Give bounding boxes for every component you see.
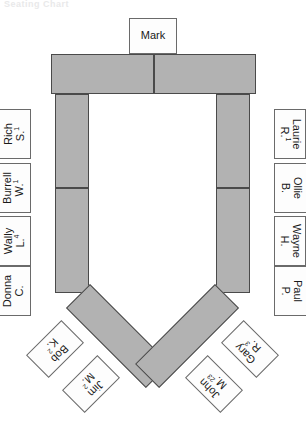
seat-lastname-burrell: W.1 (14, 172, 26, 204)
table-segment-right-lower (216, 188, 250, 293)
seat-name-mark: Mark (141, 30, 165, 42)
seat-sup-wally: 4 (13, 234, 20, 238)
seat-sup-rich: 1 (13, 127, 20, 131)
seat-lastname-wally: L.4 (15, 228, 27, 254)
faint-header-text: Seating Chart (4, 0, 69, 9)
seat-sup-burrell: 1 (12, 180, 19, 184)
seat-name-ollie: Ollie (291, 177, 303, 199)
seat-lastname-ollie: B. (279, 177, 291, 199)
seat-card-wally[interactable]: Wally L.4 (0, 216, 31, 266)
seat-card-donna[interactable]: Donna C. (0, 266, 31, 316)
seat-card-burrell[interactable]: Burrell W.1 (0, 163, 31, 213)
seat-card-jim[interactable]: Jim M.2 (62, 355, 120, 413)
table-segment-left-lower (55, 188, 89, 293)
table-segment-top-left (51, 54, 154, 94)
seat-card-bob[interactable]: Bob K.2 (26, 320, 84, 378)
seat-card-laurie[interactable]: Laurie R.1 (274, 109, 306, 159)
seat-lastname-laurie: R.1 (278, 119, 290, 150)
seat-card-mark[interactable]: Mark (129, 18, 177, 54)
seat-card-rich[interactable]: Rich S.1 (0, 109, 31, 159)
table-segment-left-upper (55, 94, 89, 188)
seat-lastname-paul: P. (279, 280, 291, 302)
seat-name-wayne: Wayne (290, 224, 302, 258)
seat-card-paul[interactable]: Paul P. (274, 266, 306, 316)
seat-name-laurie: Laurie (290, 119, 302, 150)
table-segment-top-right (154, 54, 256, 94)
seat-card-wayne[interactable]: Wayne H. (274, 216, 306, 266)
seat-lastname-donna: C. (14, 275, 26, 307)
seat-name-paul: Paul (291, 280, 303, 302)
seat-lastname-wayne: H. (278, 224, 290, 258)
seat-sup-laurie: 1 (285, 138, 292, 142)
seat-card-ollie[interactable]: Ollie B. (274, 163, 306, 213)
seat-card-gary[interactable]: Gary R.3 (221, 320, 279, 378)
seat-lastname-rich: S.1 (15, 123, 27, 145)
seat-card-john[interactable]: John M.23 (185, 355, 243, 413)
seating-chart-diagram: Seating Chart Mark Rich S.1 Burrell W.1 … (0, 0, 306, 437)
table-segment-right-upper (216, 94, 250, 188)
